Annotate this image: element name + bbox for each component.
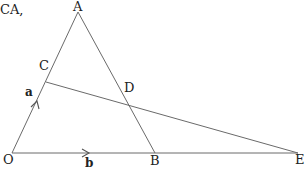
label-a-point: A	[72, 0, 83, 14]
label-vector-a: a	[25, 85, 33, 99]
label-b-point: B	[150, 153, 160, 168]
label-d-point: D	[124, 80, 134, 95]
label-c-point: C	[39, 58, 49, 73]
geometry-diagram: CA, A C D O B E a b	[0, 0, 307, 170]
caption-text: CA,	[0, 2, 23, 17]
label-e-point: E	[295, 152, 305, 167]
segment-ab	[78, 12, 155, 153]
segment-ce	[46, 82, 298, 153]
label-vector-b: b	[85, 156, 93, 170]
label-o-point: O	[3, 152, 14, 167]
segment-oa	[12, 12, 78, 153]
diagram-svg: CA, A C D O B E a b	[0, 0, 307, 170]
